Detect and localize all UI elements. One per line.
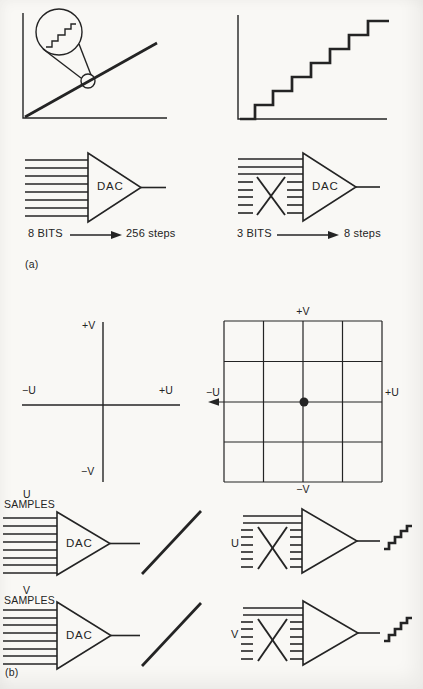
magnified-staircase: [46, 24, 76, 47]
dac-8bit-chip-label: DAC: [97, 180, 123, 192]
arrow-right-icon: [328, 231, 339, 239]
axes-minus-v-label: −V: [81, 466, 95, 477]
panel-b-label: (b): [5, 667, 18, 678]
dac-8bit-input-lines: [25, 160, 88, 216]
grid-horizontal-lines: [211, 321, 382, 482]
diagram-canvas: [0, 0, 423, 689]
v-samples-label: SAMPLES: [4, 595, 55, 606]
v-reduced-label: V: [231, 629, 239, 641]
u-reduced-label: U: [231, 538, 239, 550]
caption-arrow-8bit: [70, 231, 122, 239]
axes-plus-v-label: +V: [82, 320, 96, 331]
crossed-out-x-icon: [258, 527, 287, 569]
staircase-axes: [238, 15, 387, 119]
magnifier-tangent-right: [79, 44, 91, 75]
panel-a-label: (a): [25, 259, 38, 270]
axes-minus-u-label: −U: [22, 385, 36, 396]
crossed-out-x-icon: [257, 177, 285, 215]
grid-plus-u-label: +U: [385, 387, 399, 398]
caption-8bits: 8 BITS: [28, 228, 63, 240]
staircase-graph: [238, 15, 389, 119]
grid-minus-u-label: −U: [206, 387, 220, 398]
ramp-axes: [23, 13, 167, 118]
figure-page: DAC 8 BITS 256 steps DAC 3 BITS 8 steps …: [0, 0, 423, 689]
u-samples-label: SAMPLES: [4, 499, 55, 510]
uv-grid: [208, 321, 382, 482]
axes-plus-u-label: +U: [159, 385, 173, 396]
u-dac-chip-label: DAC: [66, 537, 92, 549]
magnifier-tangent-left: [43, 49, 81, 78]
crossed-out-x-icon: [258, 619, 287, 661]
grid-minus-v-label: −V: [296, 484, 310, 495]
v-staircase-output-icon: [384, 618, 412, 641]
dac-3bit-symbol: [238, 153, 380, 221]
v-dac-input-lines: [3, 610, 57, 664]
caption-3bits: 3 BITS: [237, 228, 272, 240]
ramp-graph: [23, 9, 167, 118]
uv-axes: [22, 322, 180, 482]
u-reduced-kept-lines: [243, 516, 302, 523]
dac-triangle: [303, 601, 358, 665]
u-dac-input-lines: [3, 518, 57, 573]
dac-triangle: [302, 509, 357, 573]
u-reduced-dac-symbol: [241, 509, 412, 573]
v-reduced-dac-symbol: [241, 601, 412, 665]
grid-plus-v-label: +V: [296, 306, 310, 317]
dac-3bit-chip-label: DAC: [312, 180, 338, 192]
v-reduced-kept-lines: [243, 608, 303, 615]
dac-3bit-kept-lines: [238, 159, 303, 174]
ramp-line: [25, 43, 157, 117]
caption-256steps: 256 steps: [126, 228, 176, 240]
staircase-line: [240, 21, 389, 119]
origin-dot: [300, 398, 309, 407]
v-dac-symbol: [3, 602, 201, 669]
v-dac-chip-label: DAC: [66, 629, 92, 641]
u-dac-symbol: [3, 511, 201, 575]
u-staircase-output-icon: [384, 526, 412, 549]
magnifier-circle: [36, 9, 82, 55]
arrow-right-icon: [111, 231, 122, 239]
arrow-left-icon: [208, 398, 219, 406]
caption-arrow-3bit: [277, 231, 339, 239]
v-ramp-output-line: [142, 603, 201, 666]
dac-8bit-symbol: [25, 153, 166, 222]
caption-8steps: 8 steps: [344, 228, 381, 240]
u-ramp-output-line: [142, 511, 201, 574]
